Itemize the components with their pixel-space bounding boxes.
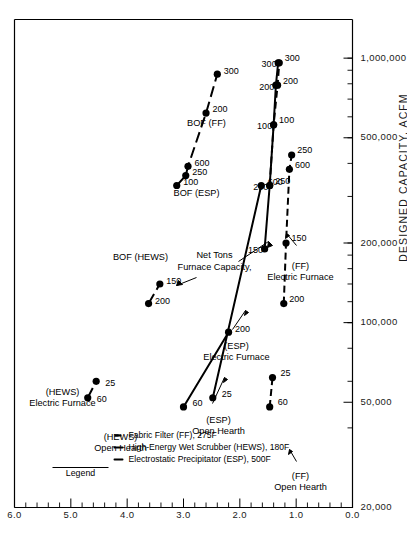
data-point-capacity-label: 250	[275, 175, 290, 185]
data-point-marker	[213, 70, 220, 77]
data-point-capacity-label: 600	[294, 159, 309, 169]
data-point-capacity-label: 25	[221, 389, 231, 399]
series-line-open-hearth-ff	[269, 377, 272, 406]
curve-label-electric-furnace-hews-line2: (HEWS)	[45, 386, 79, 396]
x-axis-title: DESIGNED CAPACITY, ACFM	[396, 93, 407, 261]
y-tick-label: 5.0	[63, 509, 77, 520]
y-tick-label: 0.0	[345, 509, 359, 520]
curve-label-bof-ff: BOF (FF)	[187, 117, 226, 127]
data-point-capacity-label: 200	[283, 75, 298, 85]
data-point-capacity-label: 250	[192, 166, 207, 176]
y-tick-label: 4.0	[119, 509, 133, 520]
data-point-capacity-label: 25	[280, 367, 290, 377]
curve-label-electric-furnace-hews: Electric Furnace	[29, 397, 95, 407]
curve-label-open-hearth-esp-leader-arrow	[223, 377, 227, 382]
y-tick-label: 1.0	[288, 509, 302, 520]
legend-title: Legend	[65, 467, 94, 477]
series-line-electric-furnace-esp	[212, 185, 260, 397]
curve-label-bof-hews: BOF (HEWS)	[112, 251, 167, 261]
curve-label-open-hearth-ff-line2: (FF)	[291, 470, 308, 480]
data-point-capacity-label: 300	[284, 53, 299, 63]
data-point-marker	[202, 109, 209, 116]
chart-canvas: 20,00050,000100,000200,000500,0001,000,0…	[0, 0, 407, 553]
x-tick-label: 100,000	[360, 316, 397, 327]
y-tick-label: 2.0	[232, 509, 246, 520]
data-point-marker	[288, 151, 295, 158]
curve-label-electric-furnace-esp: Electric Furnace	[203, 351, 269, 361]
data-point-capacity-label: 60	[277, 397, 287, 407]
data-point-marker	[285, 165, 292, 172]
data-point-capacity-label: 100	[279, 115, 294, 125]
data-point-marker	[92, 377, 99, 384]
data-point-marker	[156, 280, 163, 287]
curve-label-bof-esp: BOF (ESP)	[173, 187, 219, 197]
x-tick-label: 200,000	[360, 236, 397, 247]
x-tick-label: 1,000,000	[360, 51, 406, 62]
figure-page: 20,00050,000100,000200,000500,0001,000,0…	[0, 0, 407, 553]
rotated-figure-wrapper: 20,00050,000100,000200,000500,0001,000,0…	[0, 0, 407, 553]
data-point-capacity-label: 250	[253, 181, 268, 191]
curve-label-electric-furnace-esp-line2: (ESP)	[224, 340, 249, 350]
data-point-capacity-label: 200	[235, 323, 250, 333]
data-point-marker	[268, 373, 275, 380]
data-point-capacity-label: 250	[297, 145, 312, 155]
data-point-capacity-label: 200	[259, 81, 274, 91]
data-point-marker	[280, 300, 287, 307]
data-point-marker	[266, 403, 273, 410]
curve-label-electric-furnace-esp-leader-arrow	[244, 310, 248, 315]
data-point-capacity-label: 150	[248, 245, 263, 255]
data-point-capacity-label: 600	[194, 157, 209, 167]
data-point-capacity-label: 300	[223, 65, 238, 75]
data-point-marker	[209, 394, 216, 401]
curve-label-open-hearth-esp-line2: (ESP)	[206, 414, 231, 424]
y-tick-label: 3.0	[176, 509, 190, 520]
data-point-capacity-label: 100	[257, 121, 272, 131]
curve-label-electric-furnace-ff-line2: (FF)	[291, 260, 308, 270]
curve-label-open-hearth-ff: Open Hearth	[274, 481, 327, 491]
x-tick-label: 500,000	[360, 131, 397, 142]
chart-svg: 20,00050,000100,000200,000500,0001,000,0…	[0, 0, 407, 553]
x-tick-label: 20,000	[360, 501, 391, 512]
data-point-capacity-label: 25	[105, 377, 115, 387]
data-point-capacity-label: 60	[192, 398, 202, 408]
x-tick-label: 50,000	[360, 395, 391, 406]
data-point-capacity-label: 200	[155, 295, 170, 305]
legend-entry-label-ff: Fabric Filter (FF), 275F	[128, 429, 216, 439]
furnace-capacity-note-line2: Net Tons	[196, 249, 232, 259]
furnace-capacity-note-line1: Furnace Capacity,	[177, 261, 251, 271]
legend-entry-label-esp: Electrostatic Precipitator (ESP), 500F	[128, 453, 270, 463]
curve-label-electric-furnace-ff: Electric Furnace	[267, 271, 333, 281]
legend-entry-label-hews: High-Energy Wet Scrubber (HEWS), 180F	[128, 441, 289, 451]
y-tick-label: 6.0	[7, 509, 21, 520]
data-point-capacity-label: 60	[96, 394, 106, 404]
data-point-marker	[282, 239, 289, 246]
data-point-capacity-label: 200	[289, 293, 304, 303]
data-point-capacity-label: 300	[261, 59, 276, 69]
data-point-capacity-label: 200	[212, 104, 227, 114]
